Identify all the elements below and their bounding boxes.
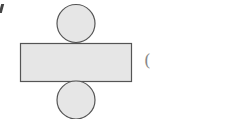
top-circle [57, 5, 95, 43]
cylinder-net-diagram [0, 0, 229, 119]
answer-parenthesis: ( [144, 52, 151, 69]
bottom-circle [57, 81, 95, 119]
lateral-rectangle [21, 44, 132, 82]
